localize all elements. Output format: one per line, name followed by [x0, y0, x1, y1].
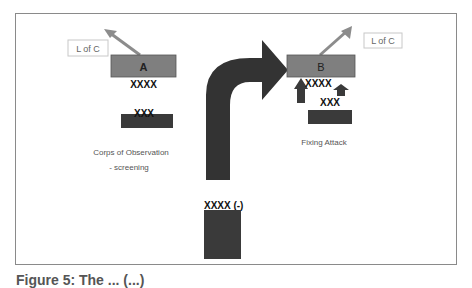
right-sub-unit-size: XXX [320, 97, 340, 108]
right-sub-unit [308, 110, 352, 124]
main-force-size: XXXX (-) [204, 200, 243, 211]
right-loc-arrow [320, 26, 352, 55]
corps-observation-label: Corps of Observation [93, 148, 169, 157]
unit-a-label: A [140, 61, 148, 73]
left-sub-unit: XXX [121, 108, 173, 128]
unit-a: A [111, 55, 176, 77]
main-attack-arrow [206, 40, 288, 180]
right-fixing-arrow [333, 84, 349, 96]
screening-label: - screening [109, 163, 149, 172]
main-force-unit [204, 210, 241, 259]
left-loc-label: L of C [76, 44, 100, 54]
unit-b-label: B [317, 61, 324, 73]
fixing-attack-label: Fixing Attack [301, 138, 347, 147]
unit-b-size: XXXX [305, 78, 332, 89]
unit-b: B [287, 55, 355, 77]
right-loc-box: L of C [364, 33, 402, 48]
unit-a-size: XXXX [130, 79, 157, 90]
left-loc-arrow [104, 29, 140, 55]
left-loc-box: L of C [68, 40, 108, 56]
figure-caption: Figure 5: The ... (...) [16, 272, 144, 288]
left-sub-unit-size: XXX [134, 108, 154, 119]
right-loc-label: L of C [371, 36, 395, 46]
